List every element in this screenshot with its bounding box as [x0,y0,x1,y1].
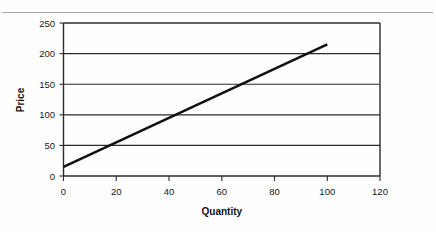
x-tick-label-60: 60 [217,186,228,197]
supply-line [64,44,328,166]
y-tick-label-150: 150 [39,79,55,90]
y-tick-label-250: 250 [39,18,55,29]
x-tick-labels: 0 20 40 60 80 100 120 [61,186,388,197]
y-axis-title: Price [15,87,26,112]
y-tick-label-200: 200 [39,48,55,59]
x-tick-label-100: 100 [319,186,335,197]
series-supply [64,44,328,166]
x-tick-marks [64,176,381,181]
y-tick-labels: 250 200 150 100 50 0 [39,18,55,182]
x-tick-label-20: 20 [111,186,122,197]
x-axis-title: Quantity [202,206,243,217]
y-tick-label-100: 100 [39,109,55,120]
x-tick-label-0: 0 [61,186,66,197]
supply-curve-chart: 250 200 150 100 50 0 0 20 40 60 80 100 1… [0,0,436,232]
gridlines-horizontal [64,54,381,146]
x-tick-label-40: 40 [164,186,175,197]
x-tick-label-80: 80 [269,186,280,197]
plot-frame [64,23,381,176]
y-tick-label-0: 0 [50,171,55,182]
x-tick-label-120: 120 [372,186,388,197]
y-tick-label-50: 50 [44,140,55,151]
chart-canvas: 250 200 150 100 50 0 0 20 40 60 80 100 1… [0,0,436,232]
